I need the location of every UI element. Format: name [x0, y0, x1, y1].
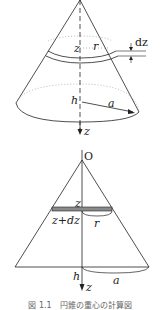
- label-r-bottom: r: [94, 217, 100, 230]
- label-z-top: z: [73, 42, 80, 55]
- figure-caption: 図 1.1 円錐の重心の計算図: [0, 299, 160, 310]
- label-axis-z-bottom: z: [85, 281, 92, 294]
- a-brace: [82, 267, 149, 273]
- ring-bottom-arc: [46, 56, 118, 63]
- base-radius-arrowhead: [128, 109, 135, 114]
- dz-arrowhead-down: [129, 47, 133, 51]
- label-z-bottom: z: [74, 197, 81, 210]
- top-cone-diagram: z r dz h a z: [16, 0, 148, 138]
- label-h-top: h: [71, 94, 78, 107]
- label-z-plus-dz: z+dz: [51, 214, 80, 227]
- label-origin-O: O: [84, 150, 93, 163]
- label-h-bottom: h: [73, 270, 80, 283]
- top-axis-arrowhead: [78, 129, 83, 135]
- ring-top-arc: [48, 51, 116, 58]
- bottom-axis-arrowhead: [80, 284, 85, 291]
- cone-left-edge: [16, 0, 80, 103]
- label-axis-z-top: z: [83, 125, 90, 138]
- label-r-top: r: [93, 40, 99, 53]
- dz-arrowhead-up: [129, 56, 133, 60]
- bottom-cross-section-diagram: O z z+dz r h a z: [15, 150, 149, 294]
- r-brace: [82, 211, 112, 216]
- label-a-top: a: [108, 97, 115, 110]
- label-a-bottom: a: [113, 274, 120, 287]
- disk-slice: [52, 207, 112, 211]
- label-dz: dz: [135, 36, 148, 49]
